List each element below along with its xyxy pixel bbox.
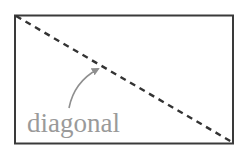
diagram-canvas: diagonal [0, 0, 249, 150]
arrow-icon [69, 69, 98, 108]
diagonal-label: diagonal [27, 108, 120, 138]
